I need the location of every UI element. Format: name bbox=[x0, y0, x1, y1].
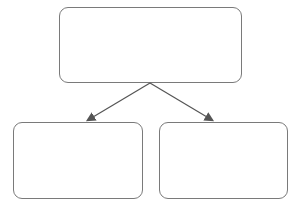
split-arrows bbox=[0, 0, 290, 216]
arrow-left bbox=[88, 83, 150, 120]
arrow-right bbox=[150, 83, 212, 120]
